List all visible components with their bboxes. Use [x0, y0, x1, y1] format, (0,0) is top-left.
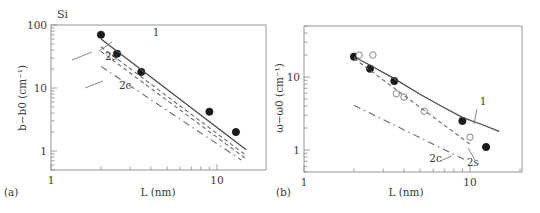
- data-point-open: [393, 91, 399, 97]
- plot-series-a: [97, 31, 246, 160]
- chart-panel-b: 110110 12c2s ω−ω0 (cm⁻¹) L (nm) (b): [273, 26, 522, 198]
- curve-label-2s: 2s: [467, 156, 479, 168]
- curve-label-2c: 2c: [119, 79, 132, 91]
- x-tick-label: 1: [301, 176, 308, 188]
- data-point-open: [356, 52, 362, 58]
- curve-2s: [101, 47, 246, 156]
- data-point-open: [370, 52, 376, 58]
- leader-line: [72, 52, 92, 60]
- curve-label-1: 1: [480, 95, 487, 107]
- plot-series-b: [350, 52, 499, 161]
- curve-label-1: 1: [153, 26, 160, 38]
- y-tick-label: 10: [34, 82, 47, 94]
- axis-ticks-a: 110110100: [27, 19, 224, 186]
- y-tick-label: 1: [40, 145, 47, 157]
- axis-ticks-b: 110110: [287, 26, 520, 188]
- panel-label-b: (b): [276, 186, 291, 198]
- curve-2s-b: [101, 52, 246, 159]
- data-point-filled: [206, 108, 213, 115]
- curve-labels-a: 12s2c: [72, 26, 159, 92]
- data-point-filled: [97, 31, 104, 38]
- x-axis-label-a: L (nm): [140, 186, 175, 198]
- y-tick-label: 1: [293, 144, 300, 156]
- plot-frame-a: [51, 25, 266, 170]
- material-label: Si: [57, 8, 69, 21]
- curve-1: [101, 39, 246, 150]
- y-tick-label: 10: [287, 71, 300, 83]
- figure: 110110100 12s2c Si b−b0 (cm⁻¹) L (nm) (a…: [0, 0, 540, 213]
- data-point-filled: [232, 128, 239, 135]
- leader-line: [85, 81, 103, 88]
- plot-frame-b: [304, 26, 522, 172]
- data-point-filled: [482, 143, 489, 150]
- y-axis-label-a: b−b0 (cm⁻¹): [16, 65, 28, 131]
- x-tick-label: 1: [48, 174, 55, 186]
- curve-labels-b: 12c2s: [429, 95, 486, 169]
- data-point-open: [467, 134, 473, 140]
- curve-label-2c: 2c: [429, 152, 442, 164]
- chart-panel-a: 110110100 12s2c Si b−b0 (cm⁻¹) L (nm) (a…: [4, 8, 266, 198]
- curve-2s: [354, 58, 470, 144]
- curve-label-2s: 2s: [105, 50, 117, 62]
- x-tick-label: 10: [463, 176, 476, 188]
- x-axis-label-b: L (nm): [388, 186, 423, 198]
- y-axis-label-b: ω−ω0 (cm⁻¹): [273, 63, 285, 133]
- curve-2c: [354, 105, 466, 160]
- y-tick-label: 100: [27, 19, 47, 31]
- x-tick-label: 10: [210, 174, 223, 186]
- panel-label-a: (a): [4, 186, 18, 198]
- curve-1: [354, 57, 499, 132]
